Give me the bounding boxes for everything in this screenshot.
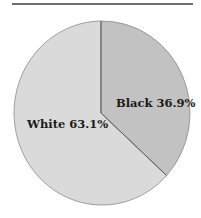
pie-chart: Black 36.9% White 63.1% [0,0,201,218]
label-black: Black 36.9% [116,96,196,110]
label-white: White 63.1% [26,117,108,131]
